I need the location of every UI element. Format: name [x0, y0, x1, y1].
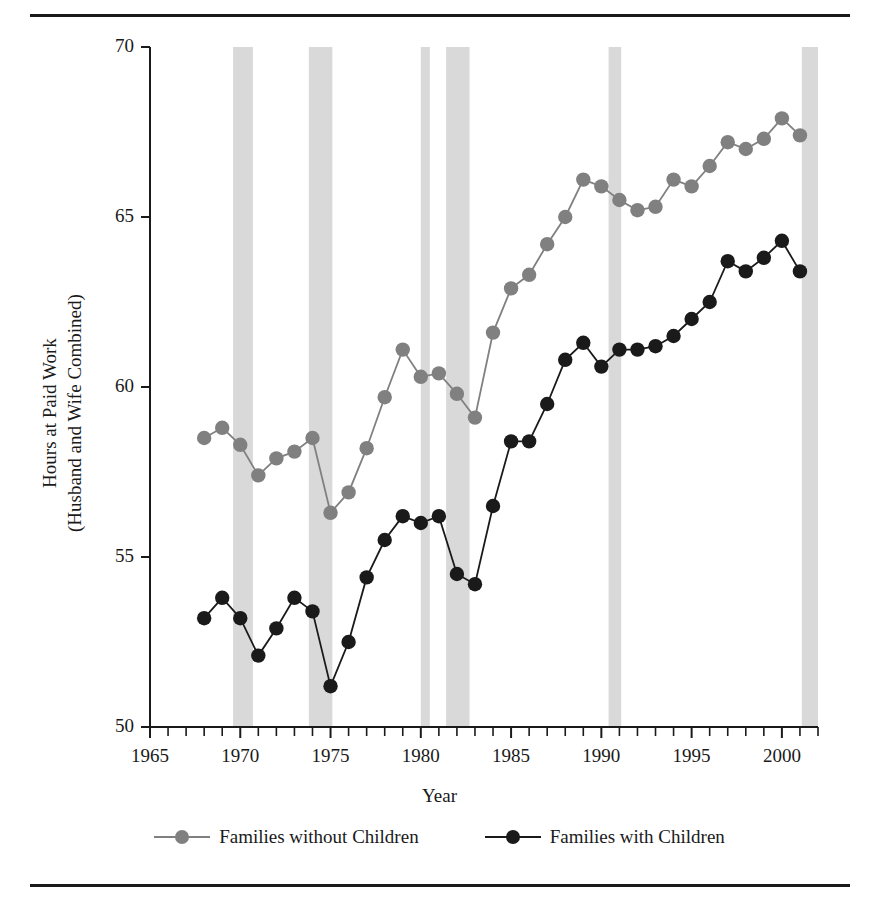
- data-point[interactable]: [396, 342, 410, 356]
- x-tick-label: 1975: [291, 745, 371, 767]
- figure-container: 5055606570196519701975198019851990199520…: [0, 0, 879, 898]
- data-point[interactable]: [323, 679, 337, 693]
- legend-item-without-children[interactable]: Families without Children: [154, 826, 419, 848]
- data-point[interactable]: [793, 264, 807, 278]
- data-point[interactable]: [775, 234, 789, 248]
- data-point[interactable]: [287, 444, 301, 458]
- data-point[interactable]: [450, 567, 464, 581]
- legend-dot-icon: [506, 830, 520, 844]
- recession-band: [421, 47, 430, 727]
- data-point[interactable]: [468, 577, 482, 591]
- data-point[interactable]: [648, 339, 662, 353]
- data-point[interactable]: [323, 506, 337, 520]
- data-point[interactable]: [233, 611, 247, 625]
- data-point[interactable]: [269, 621, 283, 635]
- x-tick-label: 1985: [471, 745, 551, 767]
- data-point[interactable]: [721, 254, 735, 268]
- data-point[interactable]: [305, 604, 319, 618]
- data-point[interactable]: [378, 533, 392, 547]
- data-point[interactable]: [612, 342, 626, 356]
- data-point[interactable]: [540, 237, 554, 251]
- series-points-group: [197, 111, 807, 693]
- data-point[interactable]: [558, 210, 572, 224]
- data-point[interactable]: [359, 441, 373, 455]
- legend-item-with-children[interactable]: Families with Children: [485, 826, 725, 848]
- y-axis-title: Hours at Paid Work (Husband and Wife Com…: [37, 273, 87, 553]
- data-point[interactable]: [702, 159, 716, 173]
- data-point[interactable]: [378, 390, 392, 404]
- data-point[interactable]: [540, 397, 554, 411]
- legend-dot-icon: [175, 830, 189, 844]
- legend-marker-with-children: [485, 830, 541, 844]
- recession-band: [802, 47, 818, 727]
- data-point[interactable]: [594, 179, 608, 193]
- data-point[interactable]: [739, 142, 753, 156]
- data-point[interactable]: [215, 421, 229, 435]
- data-point[interactable]: [666, 329, 680, 343]
- data-point[interactable]: [522, 434, 536, 448]
- x-axis-title: Year: [0, 785, 879, 807]
- data-point[interactable]: [269, 451, 283, 465]
- data-point[interactable]: [775, 111, 789, 125]
- data-point[interactable]: [251, 468, 265, 482]
- data-point[interactable]: [739, 264, 753, 278]
- legend-label-without-children: Families without Children: [219, 826, 419, 848]
- data-point[interactable]: [197, 431, 211, 445]
- data-point[interactable]: [197, 611, 211, 625]
- data-point[interactable]: [468, 410, 482, 424]
- chart-legend: Families without Children Families with …: [0, 826, 879, 848]
- data-point[interactable]: [558, 353, 572, 367]
- data-point[interactable]: [305, 431, 319, 445]
- x-tick-label: 1965: [110, 745, 190, 767]
- data-point[interactable]: [504, 434, 518, 448]
- legend-marker-without-children: [154, 830, 210, 844]
- data-point[interactable]: [666, 172, 680, 186]
- data-point[interactable]: [341, 485, 355, 499]
- recession-band: [309, 47, 332, 727]
- data-point[interactable]: [612, 193, 626, 207]
- data-point[interactable]: [702, 295, 716, 309]
- data-point[interactable]: [233, 438, 247, 452]
- data-point[interactable]: [630, 203, 644, 217]
- data-point[interactable]: [721, 135, 735, 149]
- y-tick-label: 65: [0, 205, 134, 227]
- data-point[interactable]: [414, 370, 428, 384]
- data-point[interactable]: [450, 387, 464, 401]
- x-tick-label: 1980: [381, 745, 461, 767]
- data-point[interactable]: [630, 342, 644, 356]
- data-point[interactable]: [576, 172, 590, 186]
- recession-band: [609, 47, 622, 727]
- data-point[interactable]: [432, 509, 446, 523]
- data-point[interactable]: [684, 179, 698, 193]
- data-point[interactable]: [414, 516, 428, 530]
- y-axis-title-line-1: Hours at Paid Work: [37, 273, 62, 553]
- data-point[interactable]: [522, 268, 536, 282]
- x-tick-label: 1995: [652, 745, 732, 767]
- data-point[interactable]: [684, 312, 698, 326]
- data-point[interactable]: [486, 499, 500, 513]
- data-point[interactable]: [757, 251, 771, 265]
- y-tick-label: 70: [0, 35, 134, 57]
- data-point[interactable]: [287, 591, 301, 605]
- data-point[interactable]: [594, 359, 608, 373]
- x-tick-label: 2000: [742, 745, 822, 767]
- data-point[interactable]: [757, 132, 771, 146]
- data-point[interactable]: [396, 509, 410, 523]
- data-point[interactable]: [486, 325, 500, 339]
- legend-label-with-children: Families with Children: [550, 826, 725, 848]
- data-point[interactable]: [504, 281, 518, 295]
- data-point[interactable]: [359, 570, 373, 584]
- data-point[interactable]: [648, 200, 662, 214]
- data-point[interactable]: [432, 366, 446, 380]
- y-axis-title-line-2: (Husband and Wife Combined): [62, 273, 87, 553]
- recession-bands-group: [233, 47, 818, 727]
- data-point[interactable]: [251, 648, 265, 662]
- data-point[interactable]: [215, 591, 229, 605]
- x-tick-label: 1990: [561, 745, 641, 767]
- x-tick-label: 1970: [200, 745, 280, 767]
- data-point[interactable]: [341, 635, 355, 649]
- y-tick-label: 50: [0, 715, 134, 737]
- data-point[interactable]: [793, 128, 807, 142]
- data-point[interactable]: [576, 336, 590, 350]
